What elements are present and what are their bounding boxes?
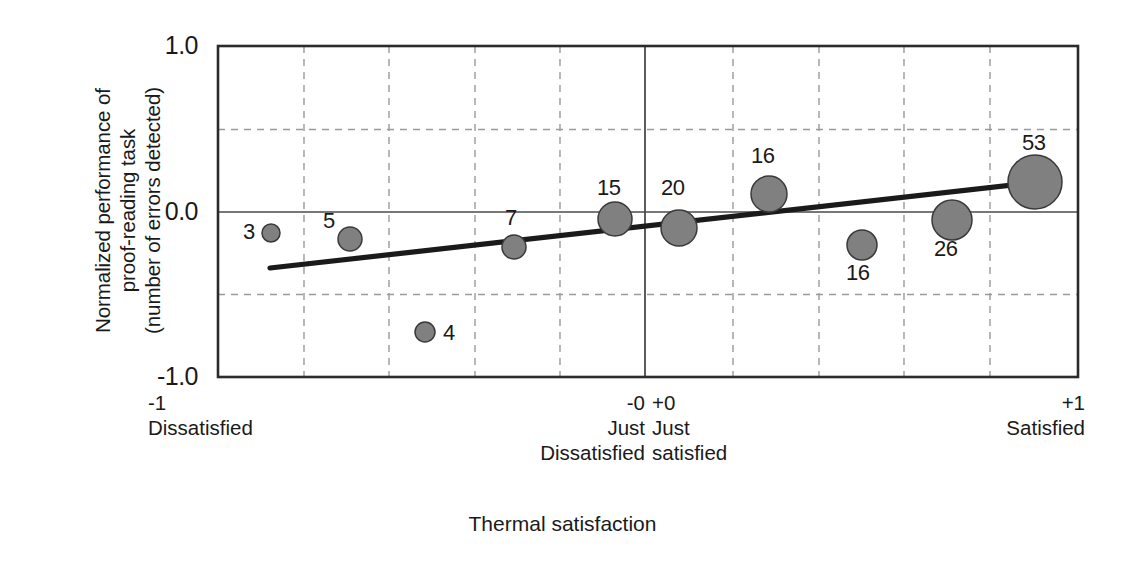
bubble-point <box>932 200 972 240</box>
x-tick-plus1-caption: Satisfied <box>960 415 1085 440</box>
bubble-point <box>338 227 362 251</box>
bubble-label: 7 <box>505 205 517 231</box>
x-tick-minus0-number: -0 <box>540 390 645 415</box>
bubble-point <box>847 230 877 260</box>
x-tick-plus0: +0 Just satisfied <box>652 390 762 465</box>
x-axis-title: Thermal satisfaction <box>0 512 1125 536</box>
bubble-point <box>751 176 787 212</box>
bubble-label: 26 <box>934 236 957 262</box>
x-tick-minus1-number: -1 <box>148 390 288 415</box>
bubble-point <box>502 235 526 259</box>
bubble-label: 53 <box>1022 130 1045 156</box>
bubble-point <box>415 322 435 342</box>
bubble-label: 3 <box>243 219 255 245</box>
bubble-label: 20 <box>661 175 684 201</box>
bubble-point <box>262 224 280 242</box>
bubble-point <box>1008 155 1062 209</box>
x-tick-minus0-caption-line1: Just <box>540 415 645 440</box>
bubble-point <box>598 202 632 236</box>
x-tick-plus0-number: +0 <box>652 390 762 415</box>
chart-figure: Normalized performance of proof-reading … <box>0 0 1125 566</box>
x-tick-plus0-caption-line1: Just <box>652 415 762 440</box>
trend-line <box>270 182 1040 268</box>
bubble-label: 15 <box>597 175 620 201</box>
plot-area <box>0 0 1125 566</box>
x-tick-minus1-caption: Dissatisfied <box>148 415 288 440</box>
x-tick-minus0-caption-line2: Dissatisfied <box>540 440 645 465</box>
x-tick-minus1: -1 Dissatisfied <box>148 390 288 440</box>
bubble-label: 4 <box>443 320 455 346</box>
x-tick-minus0: -0 Just Dissatisfied <box>540 390 645 465</box>
bubble-label: 16 <box>751 143 774 169</box>
x-tick-plus0-caption-line2: satisfied <box>652 440 762 465</box>
bubble-point <box>661 210 697 246</box>
x-tick-plus1-number: +1 <box>960 390 1085 415</box>
bubble-label: 16 <box>846 260 869 286</box>
x-tick-plus1: +1 Satisfied <box>960 390 1085 440</box>
bubble-label: 5 <box>323 208 335 234</box>
